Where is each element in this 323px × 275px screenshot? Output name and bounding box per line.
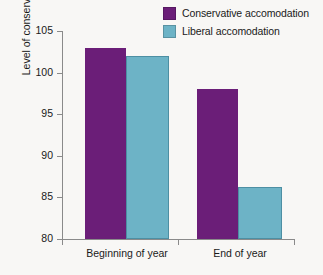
bar-chart: Conservative accomodation Liberal accomo… <box>0 0 323 275</box>
x-tick-mid <box>178 240 179 245</box>
x-tick-start <box>62 240 63 245</box>
y-axis-title: Level of conservatism <box>19 0 33 129</box>
y-tick-105: 105 <box>57 31 62 32</box>
bar-liberal-end <box>238 187 282 239</box>
legend-label-conservative: Conservative accomodation <box>182 7 309 20</box>
bar-conservative-beginning <box>85 48 126 239</box>
y-tick-label-95: 95 <box>41 107 53 119</box>
bar-conservative-end <box>197 89 238 239</box>
y-tick-label-100: 100 <box>35 66 53 78</box>
y-tick-100: 100 <box>57 73 62 74</box>
x-tick-end <box>294 240 295 245</box>
y-tick-85: 85 <box>57 197 62 198</box>
y-tick-90: 90 <box>57 156 62 157</box>
y-axis-line <box>62 31 63 240</box>
y-tick-label-90: 90 <box>41 149 53 161</box>
x-category-label-beginning: Beginning of year <box>86 247 168 259</box>
y-tick-label-85: 85 <box>41 190 53 202</box>
legend-swatch-conservative <box>163 7 176 20</box>
legend-item-conservative: Conservative accomodation <box>163 6 309 21</box>
plot-area: 105 100 95 90 85 80 <box>62 31 295 240</box>
x-category-label-end: End of year <box>213 247 267 259</box>
y-tick-label-105: 105 <box>35 24 53 36</box>
bar-liberal-beginning <box>126 56 169 239</box>
y-tick-95: 95 <box>57 114 62 115</box>
y-tick-label-80: 80 <box>41 232 53 244</box>
